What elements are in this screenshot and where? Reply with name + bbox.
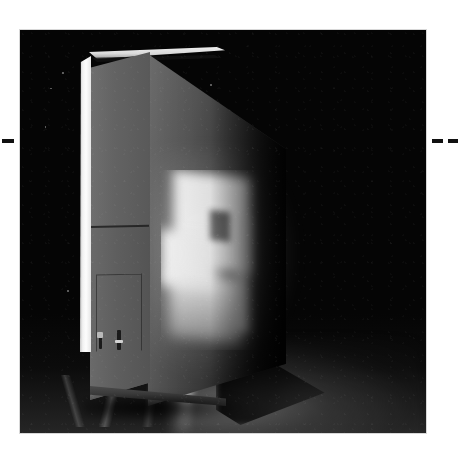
crop-mark-left	[2, 139, 14, 143]
latch-right-head	[115, 340, 123, 343]
panel-structure	[20, 30, 426, 433]
crop-mark-right-outer	[448, 139, 458, 143]
latch-left-head	[97, 332, 103, 338]
panel-base-shadow	[82, 398, 252, 422]
page-root	[0, 0, 458, 450]
photograph	[20, 30, 426, 433]
panel-lit-edge-strip	[80, 56, 91, 352]
crop-mark-right-mid	[432, 139, 443, 143]
front-face-vignette	[148, 54, 286, 406]
